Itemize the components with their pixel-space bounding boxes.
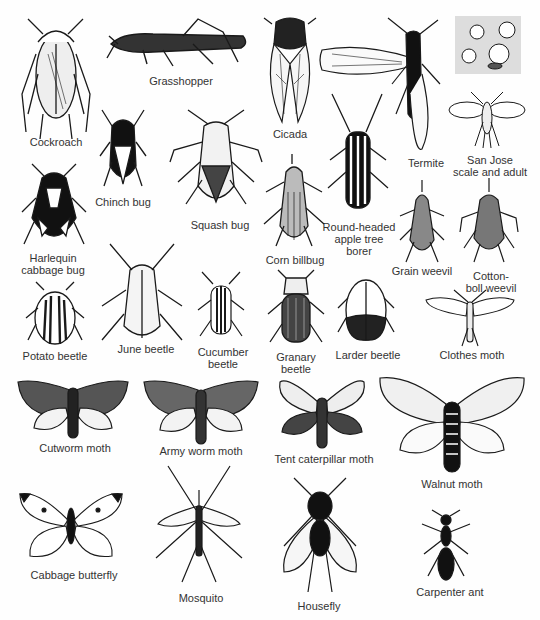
tent-caterpillar-moth-icon — [274, 374, 370, 450]
san-jose-adult-icon — [447, 88, 527, 150]
carpenter-ant-label: Carpenter ant — [408, 586, 492, 598]
carpenter-ant-illustration — [418, 510, 474, 584]
round-headed-apple-tree-borer-illustration — [324, 92, 390, 216]
walnut-moth-label: Walnut moth — [410, 478, 494, 490]
cicada-illustration — [262, 14, 318, 124]
cutworm-moth-icon — [16, 378, 130, 442]
potato-beetle-label: Potato beetle — [10, 350, 100, 362]
san-jose-scale-label: San Jose scale and adult — [446, 154, 534, 178]
cucumber-beetle-illustration — [196, 270, 246, 342]
chinch-bug-illustration — [98, 106, 148, 190]
cabbage-butterfly-label: Cabbage butterfly — [16, 569, 132, 581]
clothes-moth-illustration — [424, 288, 516, 350]
cutworm-moth-label: Cutworm moth — [20, 442, 130, 454]
mosquito-label: Mosquito — [164, 592, 238, 604]
army-worm-moth-label: Army worm moth — [146, 445, 256, 457]
cockroach-illustration — [18, 14, 93, 134]
grasshopper-label: Grasshopper — [136, 75, 226, 87]
june-beetle-illustration — [96, 240, 188, 346]
grasshopper-illustration — [103, 14, 249, 72]
grain-weevil-illustration — [398, 180, 446, 264]
army-worm-moth-illustration — [142, 378, 260, 446]
cabbage-butterfly-icon — [18, 490, 124, 562]
chinch-bug-label: Chinch bug — [88, 196, 158, 208]
walnut-moth-icon — [378, 374, 526, 476]
harlequin-cabbage-bug-illustration — [18, 158, 90, 252]
harlequin-cabbage-bug-label: Harlequin cabbage bug — [8, 252, 98, 276]
walnut-moth-illustration — [378, 374, 526, 476]
tent-caterpillar-moth-label: Tent caterpillar moth — [262, 453, 386, 465]
housefly-label: Housefly — [284, 600, 354, 612]
san-jose-scale-illustration — [455, 16, 521, 74]
june-beetle-label: June beetle — [106, 343, 186, 355]
potato-beetle-icon — [24, 280, 86, 348]
cucumber-beetle-label: Cucumber beetle — [190, 346, 256, 370]
corn-billbug-icon — [262, 152, 326, 248]
round-headed-apple-tree-borer-icon — [324, 92, 390, 216]
cockroach-label: Cockroach — [14, 136, 98, 148]
granary-beetle-illustration — [266, 268, 326, 346]
potato-beetle-illustration — [24, 280, 86, 348]
cicada-label: Cicada — [266, 128, 314, 140]
larder-beetle-label: Larder beetle — [330, 349, 406, 361]
clothes-moth-icon — [424, 288, 516, 350]
cutworm-moth-illustration — [16, 378, 130, 442]
cotton-boll-weevil-illustration — [458, 178, 520, 264]
army-worm-moth-icon — [142, 378, 260, 446]
corn-billbug-illustration — [262, 152, 326, 248]
clothes-moth-label: Clothes moth — [430, 349, 514, 361]
insect-plate: Cockroach Grasshopper Cicada — [0, 0, 540, 620]
tent-caterpillar-moth-illustration — [274, 374, 370, 450]
carpenter-ant-icon — [418, 510, 474, 584]
grasshopper-icon — [103, 14, 249, 72]
san-jose-adult-illustration — [447, 88, 527, 150]
granary-beetle-icon — [266, 268, 326, 346]
round-headed-apple-tree-borer-label: Round-headed apple tree borer — [318, 221, 400, 257]
cockroach-icon — [18, 14, 93, 134]
harlequin-cabbage-bug-icon — [18, 158, 90, 252]
squash-bug-illustration — [168, 106, 264, 210]
mosquito-illustration — [154, 466, 244, 584]
grain-weevil-icon — [398, 180, 446, 264]
mosquito-icon — [154, 466, 244, 584]
squash-bug-label: Squash bug — [180, 219, 260, 231]
cotton-boll-weevil-icon — [458, 178, 520, 264]
june-beetle-icon — [96, 240, 188, 346]
larder-beetle-illustration — [336, 272, 396, 344]
cabbage-butterfly-illustration — [18, 490, 124, 562]
termite-label: Termite — [401, 157, 451, 169]
granary-beetle-label: Granary beetle — [266, 351, 326, 375]
cucumber-beetle-icon — [196, 270, 246, 342]
squash-bug-icon — [168, 106, 264, 210]
housefly-illustration — [278, 476, 362, 594]
chinch-bug-icon — [98, 106, 148, 190]
corn-billbug-label: Corn billbug — [258, 254, 332, 266]
san-jose-scale-icon — [455, 16, 521, 74]
cicada-icon — [262, 14, 318, 124]
housefly-icon — [278, 476, 362, 594]
larder-beetle-icon — [336, 272, 396, 344]
